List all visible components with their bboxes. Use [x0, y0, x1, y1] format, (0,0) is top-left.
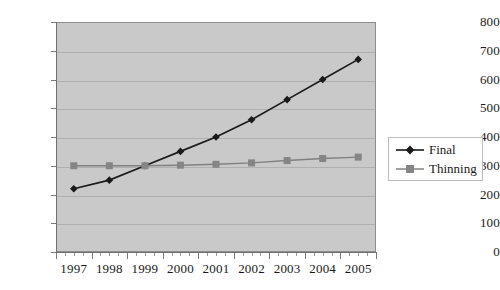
y-axis-tick-label: 500	[458, 101, 500, 114]
data-point-diamond-icon	[70, 185, 78, 193]
x-axis-minor-tick	[180, 253, 181, 256]
x-axis-tick-mark	[340, 253, 341, 259]
data-point-square-icon	[141, 162, 148, 169]
x-axis-minor-tick	[83, 253, 84, 256]
y-axis-tick-label: 100	[458, 216, 500, 229]
data-point-square-icon	[106, 162, 113, 169]
data-point-square-icon	[70, 162, 77, 169]
x-axis-tick-mark	[198, 253, 199, 259]
legend-label-thinning: Thinning	[429, 162, 477, 176]
data-point-square-icon	[319, 155, 326, 162]
legend-item-thinning: Thinning	[395, 160, 477, 178]
x-axis-tick-mark	[56, 253, 57, 259]
x-axis-minor-tick	[118, 253, 119, 256]
series-final	[70, 56, 362, 193]
x-axis-minor-tick	[296, 253, 297, 256]
line-chart: 0100200300400500600700800 19971998199920…	[0, 0, 500, 290]
data-point-diamond-icon	[212, 133, 220, 141]
legend-swatch-square-icon	[395, 162, 425, 176]
y-axis-tick-label: 800	[458, 15, 500, 28]
x-axis-tick-label: 2005	[335, 262, 381, 276]
x-axis-tick-mark	[269, 253, 270, 259]
x-axis-minor-tick	[225, 253, 226, 256]
x-axis-minor-tick	[349, 253, 350, 256]
x-axis-minor-tick	[332, 253, 333, 256]
y-axis-tick-label: 0	[458, 245, 500, 258]
data-point-square-icon	[213, 161, 220, 168]
data-point-diamond-icon	[177, 148, 185, 156]
y-axis-tick-label: 700	[458, 44, 500, 57]
series-thinning	[70, 154, 361, 170]
data-point-diamond-icon	[248, 116, 256, 124]
x-axis-minor-tick	[100, 253, 101, 256]
data-point-diamond-icon	[106, 176, 114, 184]
legend: Final Thinning	[388, 137, 483, 181]
x-axis-tick-mark	[127, 253, 128, 259]
x-axis-minor-tick	[189, 253, 190, 256]
data-point-diamond-icon	[354, 56, 362, 64]
x-axis-minor-tick	[278, 253, 279, 256]
x-axis-minor-tick	[323, 253, 324, 256]
x-axis-minor-tick	[216, 253, 217, 256]
legend-item-final: Final	[395, 141, 456, 159]
x-axis-tick-mark	[376, 253, 377, 259]
x-axis-minor-tick	[145, 253, 146, 256]
x-axis-minor-tick	[136, 253, 137, 256]
legend-swatch-diamond-icon	[395, 143, 425, 157]
x-axis-minor-tick	[109, 253, 110, 256]
data-point-diamond-icon	[319, 76, 327, 84]
x-axis-tick-mark	[92, 253, 93, 259]
legend-label-final: Final	[429, 143, 456, 157]
x-axis-minor-tick	[287, 253, 288, 256]
x-axis-tick-mark	[305, 253, 306, 259]
series-layer	[56, 22, 376, 252]
data-point-diamond-icon	[283, 96, 291, 104]
x-axis-minor-tick	[243, 253, 244, 256]
y-axis-tick-label: 600	[458, 73, 500, 86]
y-axis-tick-label: 200	[458, 188, 500, 201]
x-axis-minor-tick	[260, 253, 261, 256]
x-axis-minor-tick	[172, 253, 173, 256]
x-axis-minor-tick	[74, 253, 75, 256]
x-axis-minor-tick	[358, 253, 359, 256]
x-axis-minor-tick	[252, 253, 253, 256]
data-point-square-icon	[355, 154, 362, 161]
data-point-square-icon	[284, 157, 291, 164]
x-axis-minor-tick	[367, 253, 368, 256]
x-axis-tick-mark	[163, 253, 164, 259]
x-axis-minor-tick	[154, 253, 155, 256]
x-axis-minor-tick	[207, 253, 208, 256]
data-point-square-icon	[248, 159, 255, 166]
data-point-square-icon	[177, 162, 184, 169]
x-axis-minor-tick	[65, 253, 66, 256]
x-axis-tick-mark	[234, 253, 235, 259]
series-line	[74, 59, 358, 188]
x-axis-minor-tick	[314, 253, 315, 256]
